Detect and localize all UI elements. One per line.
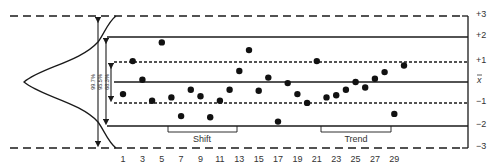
data-point: [343, 87, 349, 93]
shift-bracket: [168, 126, 237, 132]
plus2-label: +2: [476, 30, 486, 40]
data-point: [236, 68, 242, 74]
shift-label: Shift: [193, 134, 212, 144]
data-point: [362, 84, 368, 90]
data-point: [304, 100, 310, 106]
pct-99-7-label: 99.7%: [90, 74, 96, 90]
data-point: [168, 94, 174, 100]
data-point: [285, 80, 291, 86]
trend-bracket: [321, 126, 391, 132]
plus3-label: +3: [476, 9, 486, 19]
x-tick-label: 7: [179, 154, 184, 164]
data-point: [352, 79, 358, 85]
data-point: [149, 98, 155, 104]
data-point: [256, 88, 262, 94]
minus3-label: −3: [476, 141, 486, 151]
data-point: [275, 118, 281, 124]
x-tick-label: 1: [120, 154, 125, 164]
x-tick-label: 15: [254, 154, 264, 164]
data-point: [265, 74, 271, 80]
minus1-label: −1: [476, 96, 486, 106]
data-point: [246, 47, 252, 53]
data-point: [226, 87, 232, 93]
x-tick-labels: 1357911131517192123252729: [120, 154, 399, 164]
x-tick-label: 23: [331, 154, 341, 164]
data-point: [178, 113, 184, 119]
data-point: [391, 111, 397, 117]
x-tick-label: 25: [351, 154, 361, 164]
data-point: [217, 98, 223, 104]
data-point: [130, 58, 136, 64]
data-point: [314, 58, 320, 64]
pct-95-5-label: 95.5%: [97, 74, 103, 90]
pct-68-3-label: 68.3%: [104, 74, 110, 90]
x-tick-label: 3: [140, 154, 145, 164]
data-point: [139, 77, 145, 83]
x-tick-label: 13: [234, 154, 244, 164]
x-tick-label: 19: [292, 154, 302, 164]
data-point: [197, 93, 203, 99]
x-tick-label: 21: [312, 154, 322, 164]
data-point: [381, 69, 387, 75]
x-tick-label: 11: [215, 154, 224, 164]
data-point: [188, 87, 194, 93]
x-tick-label: 27: [370, 154, 380, 164]
data-point: [372, 76, 378, 82]
data-point: [207, 114, 213, 120]
plus1-label: +1: [476, 55, 486, 65]
x-tick-label: 29: [389, 154, 399, 164]
x-tick-label: 17: [273, 154, 283, 164]
trend-label: Trend: [344, 134, 367, 144]
data-point: [120, 91, 126, 97]
x-tick-label: 5: [159, 154, 164, 164]
data-point: [333, 92, 339, 98]
data-point: [294, 91, 300, 97]
x-tick-label: 9: [198, 154, 203, 164]
minus2-label: −2: [476, 119, 486, 129]
data-point: [323, 94, 329, 100]
control-chart: 99.7% 95.5% 68.3% +3 +2 +1 x −1 −2 −3 Sh…: [0, 0, 498, 168]
mean-label: x: [476, 75, 482, 85]
data-point: [401, 62, 407, 68]
data-point: [159, 39, 165, 45]
